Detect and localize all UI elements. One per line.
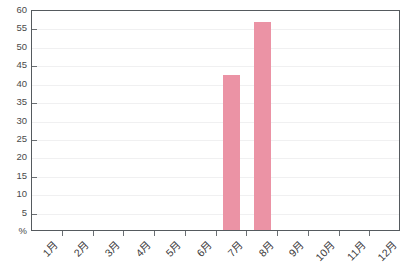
x-axis-tick: [62, 231, 63, 236]
x-axis-tick-label: 8月: [246, 240, 275, 269]
x-axis-tick-label: 5月: [154, 240, 183, 269]
gridline: [32, 29, 399, 30]
y-axis-tick: [32, 103, 37, 104]
x-axis-tick: [339, 231, 340, 236]
x-axis-tick-label: 1月: [31, 240, 60, 269]
x-axis-tick: [93, 231, 94, 236]
gridline: [32, 140, 399, 141]
bar: [223, 75, 240, 230]
y-axis-tick-label: 40: [1, 79, 27, 89]
x-axis-tick: [216, 231, 217, 236]
y-axis-tick-label: 35: [1, 97, 27, 107]
gridline: [32, 195, 399, 196]
bar: [254, 22, 271, 230]
x-axis-tick-label: 7月: [216, 240, 245, 269]
gridline: [32, 85, 399, 86]
x-axis-tick-label: 2月: [62, 240, 91, 269]
y-axis-tick-label: 45: [1, 60, 27, 70]
y-axis-tick-label: 30: [1, 116, 27, 126]
x-axis-tick-label: 11月: [339, 240, 368, 269]
x-axis-tick: [185, 231, 186, 236]
x-axis-tick-label: 10月: [308, 240, 337, 269]
gridline: [32, 177, 399, 178]
y-axis-tick-label: 20: [1, 152, 27, 162]
gridline: [32, 158, 399, 159]
x-axis-tick: [277, 231, 278, 236]
x-axis-tick: [246, 231, 247, 236]
y-axis-tick: [32, 214, 37, 215]
y-axis-tick: [32, 177, 37, 178]
y-axis-tick-label: 10: [1, 189, 27, 199]
gridline: [32, 48, 399, 49]
x-axis-tick-label: 4月: [123, 240, 152, 269]
y-axis-tick-label: 15: [1, 171, 27, 181]
x-axis-tick-label: 12月: [369, 240, 398, 269]
y-axis-tick: [32, 29, 37, 30]
y-axis-tick-label: 25: [1, 134, 27, 144]
x-axis-tick-label: 9月: [277, 240, 306, 269]
y-axis-tick-label: 55: [1, 23, 27, 33]
x-axis-tick: [154, 231, 155, 236]
x-axis-tick-label: 3月: [93, 240, 122, 269]
gridline: [32, 214, 399, 215]
y-axis-tick-label: 5: [1, 208, 27, 218]
gridline: [32, 66, 399, 67]
y-axis-tick-label: 60: [1, 5, 27, 15]
x-axis-tick-label: 6月: [185, 240, 214, 269]
gridline: [32, 122, 399, 123]
x-axis-tick: [123, 231, 124, 236]
bar-chart: %51015202530354045505560 1月2月3月4月5月6月7月8…: [0, 0, 416, 280]
plot-area: [31, 10, 400, 231]
gridline: [32, 103, 399, 104]
x-axis-tick: [369, 231, 370, 236]
y-axis-tick: [32, 140, 37, 141]
y-axis-tick-label: %: [1, 226, 27, 236]
x-axis-tick: [308, 231, 309, 236]
y-axis-tick-label: 50: [1, 42, 27, 52]
y-axis-tick: [32, 66, 37, 67]
